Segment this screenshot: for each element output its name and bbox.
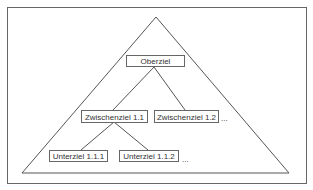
node-label: Oberziel: [141, 57, 171, 66]
edge-mid1-leaf2: [114, 122, 148, 150]
node-oberziel: Oberziel: [127, 56, 185, 67]
edge-root-mid2: [154, 67, 185, 110]
edge-mid1-leaf1: [81, 122, 114, 150]
node-label: Zwischenziel 1.2: [157, 113, 217, 122]
goal-pyramid-diagram: Oberziel Zwischenziel 1.1 Zwischenziel 1…: [0, 0, 313, 190]
ellipsis-leaf: ...: [182, 155, 189, 164]
ellipsis-mid: ...: [221, 114, 228, 123]
edge-root-mid1: [113, 67, 154, 110]
node-zwischenziel-1-2: Zwischenziel 1.2: [155, 111, 219, 123]
node-label: Zwischenziel 1.1: [85, 113, 145, 122]
node-unterziel-1-1-2: Unterziel 1.1.2: [120, 151, 179, 162]
node-unterziel-1-1-1: Unterziel 1.1.1: [50, 151, 108, 162]
node-zwischenziel-1-1: Zwischenziel 1.1: [82, 111, 148, 123]
edges: [81, 67, 185, 150]
node-label: Unterziel 1.1.1: [53, 152, 105, 161]
pyramid-triangle: [22, 17, 289, 173]
node-label: Unterziel 1.1.2: [123, 152, 175, 161]
